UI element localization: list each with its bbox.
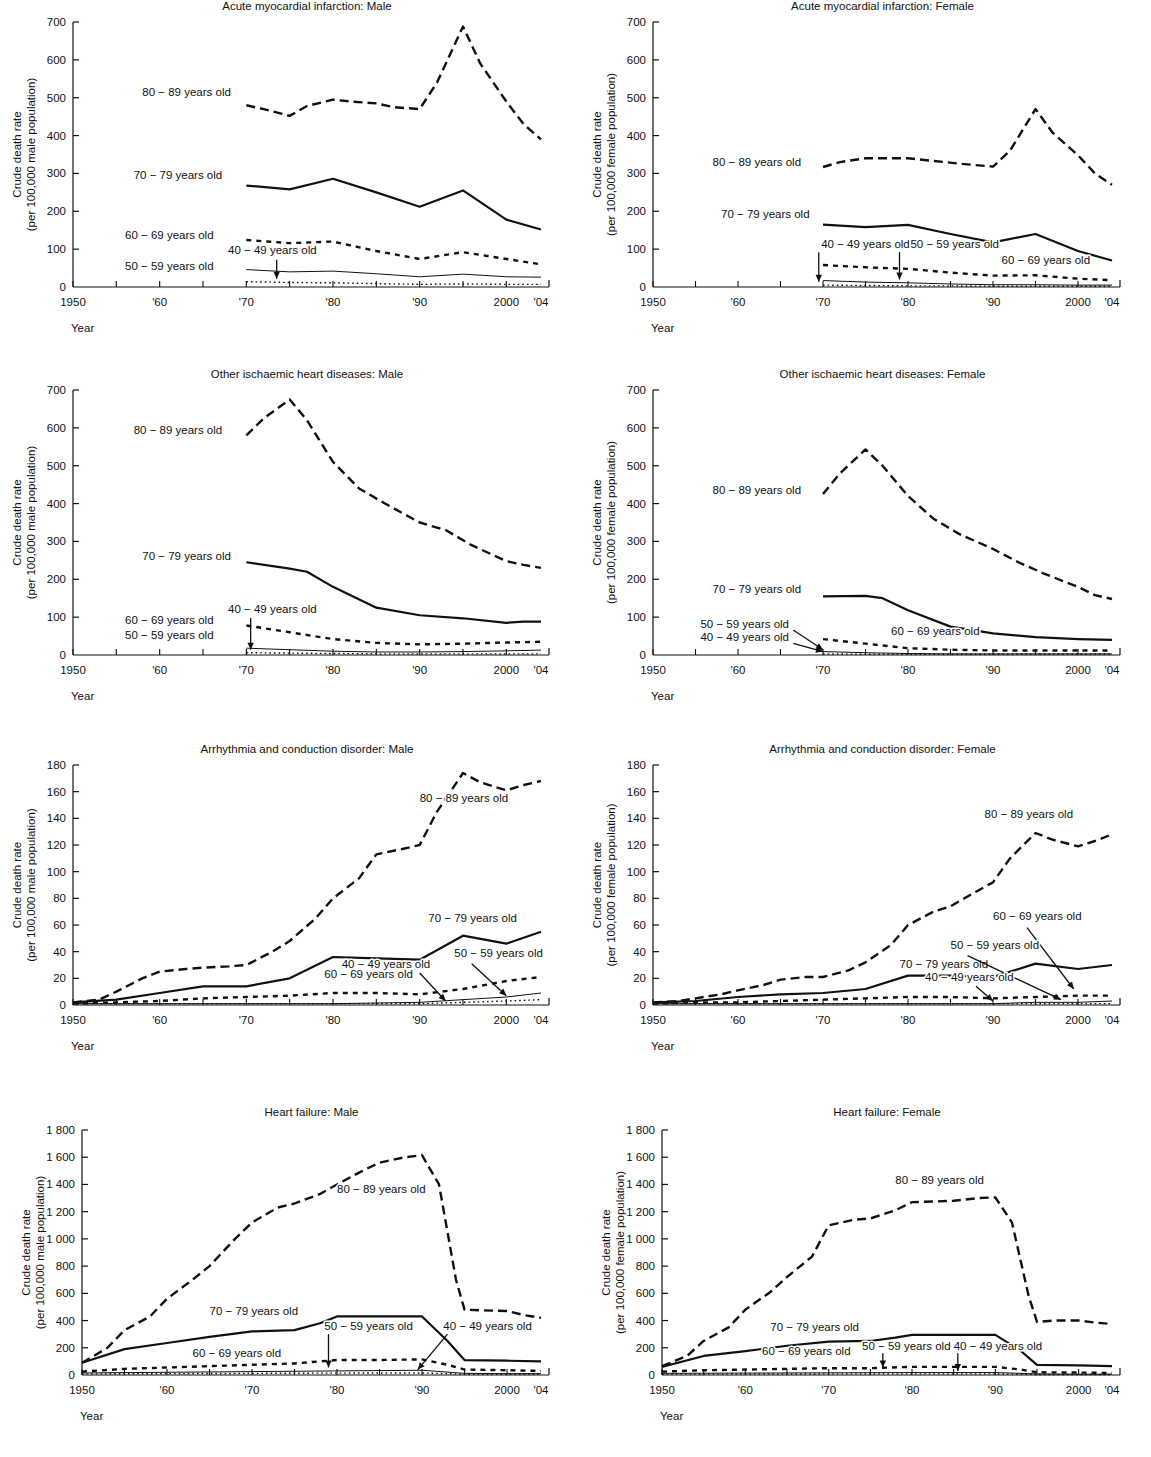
y-tick-label: 1 800	[46, 1124, 75, 1136]
y-tick-label: 600	[47, 54, 66, 66]
series-label: 40 − 49 years old	[925, 971, 1014, 983]
y-tick-label: 100	[47, 611, 66, 623]
y-tick-label: 600	[627, 54, 646, 66]
series-line	[246, 648, 541, 652]
y-tick-label: 1 200	[626, 1206, 655, 1218]
x-tick-label: '60	[738, 1384, 753, 1396]
series-line	[246, 399, 541, 567]
y-tick-label: 200	[47, 205, 66, 217]
x-tick-label: '80	[901, 664, 916, 676]
series-label: 50 − 59 years old	[324, 1320, 413, 1332]
x-axis-title: Year	[651, 1040, 674, 1052]
x-tick-label: 1950	[69, 1384, 95, 1396]
y-tick-label: 300	[627, 167, 646, 179]
panel-title: Arrhythmia and conduction disorder: Fema…	[769, 743, 995, 755]
series-label: 80 − 89 years old	[985, 808, 1074, 820]
x-tick-label: '04	[1105, 664, 1121, 676]
x-tick-label: '70	[816, 296, 831, 308]
x-axis-title: Year	[651, 690, 674, 702]
x-tick-label: 2000	[1065, 296, 1091, 308]
series-label-arrowhead	[880, 1361, 886, 1368]
x-tick-label: '04	[1105, 296, 1121, 308]
x-tick-label: '70	[816, 1014, 831, 1026]
series-line	[823, 265, 1112, 280]
series-label: 70 − 79 years old	[428, 912, 517, 924]
x-tick-label: '80	[326, 1014, 341, 1026]
y-axis-title-line1: Crude death rate	[20, 1209, 32, 1295]
series-label: 40 − 49 years old	[228, 603, 317, 615]
y-tick-label: 400	[47, 498, 66, 510]
x-tick-label: '70	[239, 664, 254, 676]
y-tick-label: 500	[47, 460, 66, 472]
series-label: 80 − 89 years old	[895, 1174, 984, 1186]
y-axis-title-line1: Crude death rate	[591, 111, 603, 197]
x-tick-label: '90	[412, 296, 427, 308]
y-axis-title-line2: (per 100,000 male population)	[25, 78, 37, 232]
series-line	[73, 932, 541, 1003]
y-tick-label: 0	[640, 649, 646, 661]
series-label: 50 − 59 years old	[700, 618, 789, 630]
x-tick-label: '70	[239, 1014, 254, 1026]
series-line	[246, 653, 541, 654]
series-label: 50 − 59 years old	[910, 238, 999, 250]
x-tick-label: 1950	[640, 296, 666, 308]
series-line	[823, 109, 1112, 185]
y-tick-label: 0	[640, 999, 646, 1011]
y-tick-label: 700	[47, 16, 66, 28]
footnote-cut-off	[0, 1448, 1151, 1457]
y-tick-label: 180	[627, 759, 646, 771]
x-axis-title: Year	[71, 690, 94, 702]
x-axis-title: Year	[71, 1040, 94, 1052]
x-tick-label: '60	[152, 1014, 167, 1026]
x-tick-label: 2000	[1066, 1384, 1092, 1396]
series-label: 80 − 89 years old	[134, 424, 223, 436]
series-label: 80 − 89 years old	[142, 86, 231, 98]
x-tick-label: '90	[412, 1014, 427, 1026]
y-axis-title-line1: Crude death rate	[591, 479, 603, 565]
x-tick-label: 2000	[494, 1384, 520, 1396]
chart-panel-ami-male: Acute myocardial infarction: Male0100200…	[0, 0, 580, 360]
panel-title: Arrhythmia and conduction disorder: Male	[201, 743, 414, 755]
y-tick-label: 60	[633, 919, 646, 931]
y-tick-label: 500	[47, 92, 66, 104]
y-tick-label: 300	[47, 167, 66, 179]
y-tick-label: 500	[627, 92, 646, 104]
y-tick-label: 400	[627, 130, 646, 142]
y-tick-label: 500	[627, 460, 646, 472]
x-tick-label: 1950	[640, 664, 666, 676]
series-label: 80 − 89 years old	[337, 1183, 426, 1195]
y-tick-label: 60	[53, 919, 66, 931]
x-tick-label: '70	[821, 1384, 836, 1396]
y-tick-label: 0	[60, 281, 66, 293]
series-label: 60 − 69 years old	[125, 229, 214, 241]
y-tick-label: 700	[47, 384, 66, 396]
x-tick-label: '04	[534, 296, 550, 308]
series-label: 60 − 69 years old	[891, 625, 980, 637]
x-tick-label: 1950	[60, 296, 86, 308]
x-tick-label: '90	[415, 1384, 430, 1396]
y-tick-label: 300	[627, 535, 646, 547]
series-label: 40 − 49 years old	[342, 958, 431, 970]
x-tick-label: '60	[731, 664, 746, 676]
series-label: 60 − 69 years old	[1002, 254, 1091, 266]
y-tick-label: 600	[47, 422, 66, 434]
y-tick-label: 40	[633, 946, 646, 958]
y-tick-label: 20	[633, 972, 646, 984]
y-tick-label: 0	[69, 1369, 75, 1381]
y-tick-label: 600	[56, 1287, 75, 1299]
chart-panel-arrhythmia-male: Arrhythmia and conduction disorder: Male…	[0, 735, 580, 1090]
y-tick-label: 0	[60, 999, 66, 1011]
y-tick-label: 160	[627, 786, 646, 798]
x-axis-title: Year	[660, 1410, 683, 1422]
panel-title: Acute myocardial infarction: Male	[222, 0, 391, 12]
x-tick-label: '90	[986, 296, 1001, 308]
y-tick-label: 40	[53, 946, 66, 958]
x-axis-title: Year	[80, 1410, 103, 1422]
y-tick-label: 100	[47, 866, 66, 878]
series-label-arrow	[472, 964, 507, 996]
x-tick-label: '04	[534, 1014, 550, 1026]
y-tick-label: 600	[636, 1287, 655, 1299]
x-tick-label: 2000	[494, 664, 520, 676]
series-line	[73, 773, 541, 1002]
series-label: 40 − 49 years old	[954, 1340, 1043, 1352]
